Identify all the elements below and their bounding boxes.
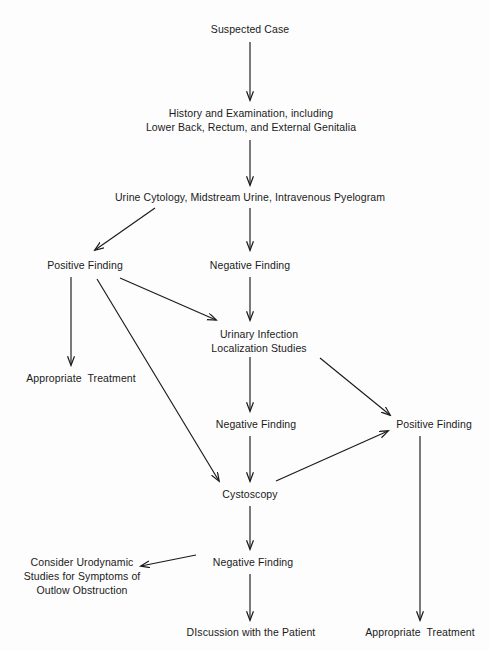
flow-arrow-cystoscopy-to-positive_finding_2: [276, 431, 388, 481]
flow-node-label: Positive Finding: [47, 258, 123, 272]
flow-node-label: Consider Urodynamic: [24, 555, 141, 569]
flow-node-label: Negative Finding: [216, 417, 296, 431]
flow-node-appropriate_treatment_2: Appropriate Treatment: [365, 625, 475, 639]
flow-node-label: DIscussion with the Patient: [187, 625, 316, 639]
flow-node-label: History and Examination, including: [146, 106, 356, 120]
flow-node-cystoscopy: Cystoscopy: [222, 487, 277, 501]
flow-node-positive_finding_2: Positive Finding: [396, 417, 472, 431]
flow-node-label: Localization Studies: [211, 341, 306, 355]
flow-arrow-urinary_infection-to-positive_finding_2: [320, 358, 390, 415]
flow-node-label: Positive Finding: [396, 417, 472, 431]
flow-node-negative_finding_3: Negative Finding: [213, 555, 293, 569]
flow-node-history_exam: History and Examination, includingLower …: [146, 106, 356, 134]
flow-node-label: Studies for Symptoms of: [24, 569, 141, 583]
flow-arrow-positive_finding_1-to-urinary_infection: [120, 278, 216, 320]
flow-node-label: Negative Finding: [213, 555, 293, 569]
flow-node-label: Urine Cytology, Midstream Urine, Intrave…: [115, 190, 385, 204]
flow-arrow-urine_cytology-to-positive_finding_1: [95, 208, 155, 250]
flow-node-positive_finding_1: Positive Finding: [47, 258, 123, 272]
flow-node-negative_finding_2: Negative Finding: [216, 417, 296, 431]
flow-node-discussion_patient: DIscussion with the Patient: [187, 625, 316, 639]
flow-node-urine_cytology: Urine Cytology, Midstream Urine, Intrave…: [115, 190, 385, 204]
flow-node-consider_urodynamic: Consider UrodynamicStudies for Symptoms …: [24, 555, 141, 597]
flow-node-label: Outlow Obstruction: [24, 583, 141, 597]
flow-node-label: Cystoscopy: [222, 487, 277, 501]
flow-node-label: Negative Finding: [210, 258, 290, 272]
flow-node-appropriate_treatment_1: Appropriate Treatment: [26, 371, 136, 385]
flow-node-negative_finding_1: Negative Finding: [210, 258, 290, 272]
flow-node-suspected_case: Suspected Case: [211, 22, 289, 36]
flow-node-label: Appropriate Treatment: [26, 371, 136, 385]
flow-node-urinary_infection: Urinary InfectionLocalization Studies: [211, 327, 306, 355]
flow-node-label: Appropriate Treatment: [365, 625, 475, 639]
flowchart-diagram: Suspected CaseHistory and Examination, i…: [0, 0, 489, 651]
flow-node-label: Urinary Infection: [211, 327, 306, 341]
flow-node-label: Lower Back, Rectum, and External Genital…: [146, 120, 356, 134]
flowchart-edges-layer: [0, 0, 489, 651]
flow-arrow-negative_finding_3-to-consider_urodynamic: [141, 555, 196, 566]
flow-node-label: Suspected Case: [211, 22, 289, 36]
